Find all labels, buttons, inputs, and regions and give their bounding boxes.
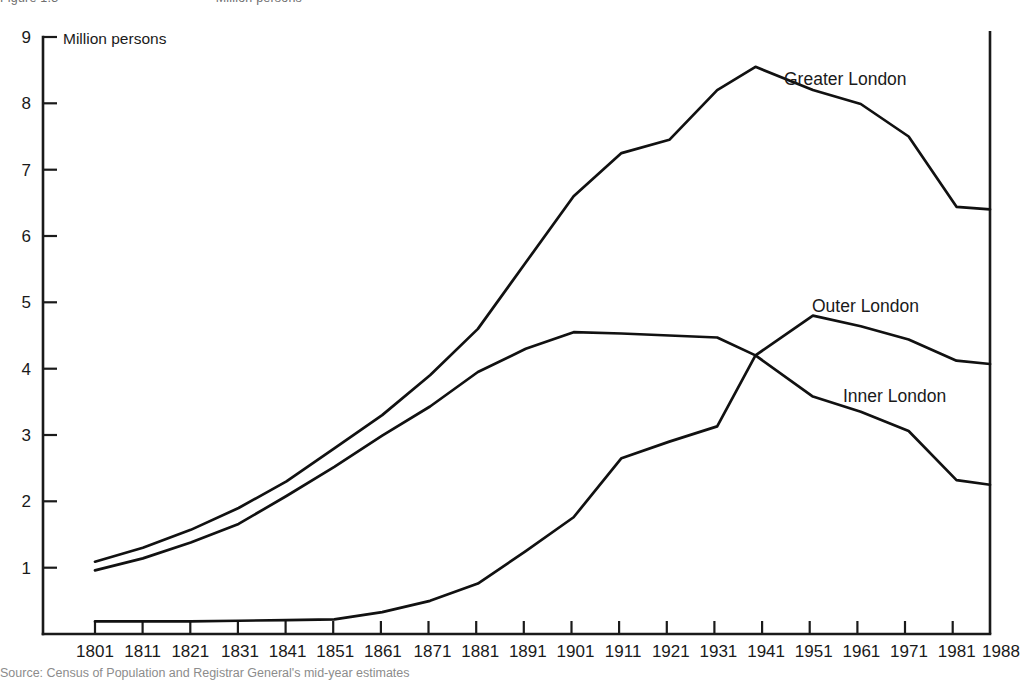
- series-lines-group: [95, 67, 990, 622]
- series-label-greater-london: Greater London: [784, 69, 907, 89]
- x-tick-label-1851: 1851: [316, 642, 354, 661]
- y-tick-label-2: 2: [22, 492, 31, 511]
- x-tick-label-1841: 1841: [269, 642, 307, 661]
- y-axis-group: 9 8 7 6 5 4 3 2 1 Million persons: [22, 28, 167, 634]
- clipped-footer-text: Source: Census of Population and Registr…: [0, 666, 1024, 684]
- x-tick-label-1988: 1988: [982, 642, 1020, 661]
- x-tick-label-1941: 1941: [747, 642, 785, 661]
- y-tick-label-7: 7: [22, 161, 31, 180]
- y-tick-label-8: 8: [22, 94, 31, 113]
- y-tick-label-4: 4: [22, 360, 31, 379]
- x-tick-label-1801: 1801: [76, 642, 114, 661]
- series-label-outer-london: Outer London: [812, 296, 919, 316]
- x-tick-label-1861: 1861: [364, 642, 402, 661]
- x-tick-label-1881: 1881: [461, 642, 499, 661]
- x-tick-label-1951: 1951: [795, 642, 833, 661]
- x-axis-ticks: [95, 621, 953, 634]
- x-tick-label-1971: 1971: [890, 642, 928, 661]
- series-labels-group: Greater London Outer London Inner London: [784, 69, 946, 406]
- series-line-outer-london: [95, 316, 990, 622]
- x-tick-label-1911: 1911: [605, 642, 642, 661]
- x-tick-label-1931: 1931: [699, 642, 737, 661]
- y-tick-label-6: 6: [22, 227, 31, 246]
- x-tick-label-1821: 1821: [171, 642, 209, 661]
- y-axis-tick-labels: 9 8 7 6 5 4 3 2 1: [22, 28, 31, 578]
- y-tick-label-9: 9: [22, 28, 31, 47]
- x-tick-label-1901: 1901: [557, 642, 595, 661]
- y-tick-label-1: 1: [22, 559, 31, 578]
- x-tick-label-1981: 1981: [938, 642, 976, 661]
- series-line-inner-london: [95, 332, 990, 570]
- y-axis-title: Million persons: [63, 30, 167, 47]
- y-tick-label-3: 3: [22, 426, 31, 445]
- x-axis-tick-labels: 1801 1811 1821 1831 1841 1851 1861 1871 …: [76, 642, 1020, 661]
- y-tick-label-5: 5: [22, 293, 31, 312]
- x-tick-label-1961: 1961: [842, 642, 880, 661]
- x-tick-label-1921: 1921: [652, 642, 690, 661]
- x-tick-label-1811: 1811: [124, 642, 161, 661]
- series-label-inner-london: Inner London: [843, 386, 946, 406]
- x-tick-label-1831: 1831: [221, 642, 259, 661]
- x-tick-label-1871: 1871: [414, 642, 452, 661]
- y-axis-ticks: [43, 37, 57, 568]
- x-tick-label-1891: 1891: [509, 642, 547, 661]
